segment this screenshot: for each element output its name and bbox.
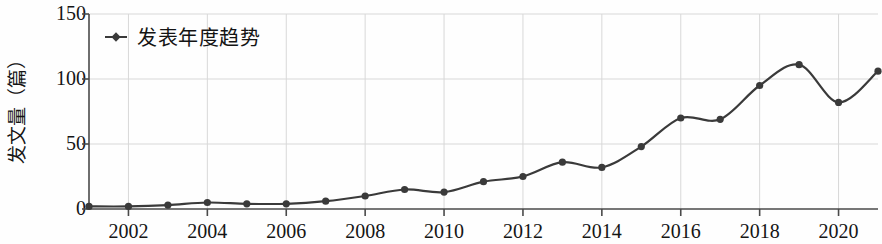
data-point: [322, 198, 329, 205]
data-point: [125, 203, 132, 210]
data-point: [480, 178, 487, 185]
legend: 发表年度趋势: [104, 22, 260, 51]
data-point: [796, 61, 803, 68]
data-point: [598, 164, 605, 171]
data-point: [164, 202, 171, 209]
data-point: [519, 173, 526, 180]
data-point: [677, 114, 684, 121]
data-point: [440, 189, 447, 196]
data-point: [638, 143, 645, 150]
data-point: [283, 200, 290, 207]
data-point: [401, 186, 408, 193]
data-point: [362, 192, 369, 199]
data-point: [204, 199, 211, 206]
data-point: [835, 99, 842, 106]
data-series-line: [85, 61, 881, 210]
legend-label: 发表年度趋势: [137, 22, 260, 51]
data-point: [756, 82, 763, 89]
legend-marker-icon: [104, 30, 128, 44]
data-point: [874, 68, 881, 75]
data-point: [85, 203, 92, 210]
data-point: [717, 116, 724, 123]
data-point: [559, 159, 566, 166]
data-point: [243, 200, 250, 207]
publication-trend-chart: 发文量（篇） 050100150 20022004200620082010201…: [0, 0, 882, 244]
